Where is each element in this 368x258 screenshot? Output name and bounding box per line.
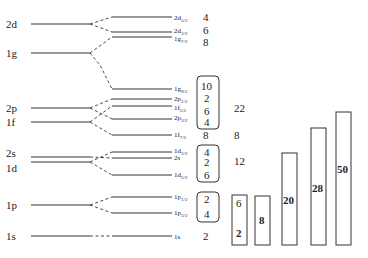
label-1g: 1g	[6, 47, 18, 59]
svg-text:10: 10	[201, 80, 213, 92]
svg-text:8: 8	[234, 129, 240, 141]
svg-text:12: 12	[234, 155, 245, 167]
label-2s: 2s	[6, 147, 16, 159]
label-1p: 1p	[6, 199, 18, 211]
magic-number-bars: 6 2 8 20 28 50	[232, 112, 351, 245]
svg-text:6: 6	[236, 197, 242, 209]
svg-text:4: 4	[204, 116, 210, 128]
label-2d: 2d	[6, 18, 18, 30]
svg-text:2p3/2: 2p3/2	[174, 114, 188, 123]
occupancy-groups: 10 2 6 4 4 2 6 2 4	[197, 76, 219, 222]
svg-text:1p1/2: 1p1/2	[174, 193, 188, 202]
svg-text:6: 6	[204, 169, 210, 181]
svg-text:28: 28	[312, 182, 324, 194]
svg-text:1g9/2: 1g9/2	[174, 85, 188, 94]
svg-text:2s: 2s	[174, 154, 181, 162]
svg-text:8: 8	[259, 214, 265, 226]
splitting-connectors	[90, 17, 112, 236]
svg-text:2: 2	[204, 92, 210, 104]
occupancy: 4	[203, 11, 209, 23]
svg-text:2: 2	[204, 156, 210, 168]
right-levels: 2d5/2 4 2d3/2 6 1g7/2 8 1g9/2 2p1/2 1f5/…	[112, 11, 209, 242]
label-1d: 1d	[6, 162, 18, 174]
label-1s: 1s	[6, 230, 16, 242]
svg-text:1d5/2: 1d5/2	[174, 171, 188, 180]
occupancy: 2	[203, 230, 209, 242]
svg-text:2p1/2: 2p1/2	[174, 95, 188, 104]
svg-text:1f7/2: 1f7/2	[174, 131, 187, 140]
svg-text:2d5/2: 2d5/2	[174, 14, 188, 23]
label-2p: 2p	[6, 102, 18, 114]
occupancy: 8	[203, 129, 209, 141]
svg-text:2: 2	[236, 227, 242, 239]
label-1f: 1f	[6, 116, 16, 128]
svg-text:22: 22	[234, 102, 245, 114]
svg-text:50: 50	[337, 163, 349, 175]
svg-text:1g7/2: 1g7/2	[174, 35, 188, 44]
svg-text:1s: 1s	[174, 233, 181, 241]
svg-text:1p3/2: 1p3/2	[174, 209, 188, 218]
occupancy: 8	[203, 36, 209, 48]
svg-text:4: 4	[204, 208, 210, 220]
occupancy: 6	[203, 24, 209, 36]
shell-model-diagram: 2d 1g 2p 1f 2s 1d 1p 1s 2d5/2	[0, 0, 368, 258]
svg-text:1f5/2: 1f5/2	[174, 104, 187, 113]
magic-bar-50	[336, 112, 351, 245]
svg-text:20: 20	[283, 194, 295, 206]
shell-totals: 22 8 12	[234, 102, 245, 167]
left-levels: 2d 1g 2p 1f 2s 1d 1p 1s	[6, 18, 90, 242]
svg-text:2: 2	[204, 193, 210, 205]
